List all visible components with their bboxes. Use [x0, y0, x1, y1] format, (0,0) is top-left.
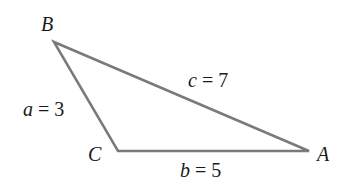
side-label-c: c = 7 [188, 69, 228, 91]
side-b-variable: b [180, 159, 190, 181]
vertex-label-c: C [88, 143, 102, 165]
triangle-diagram: B C A a = 3 c = 7 b = 5 [0, 0, 350, 196]
side-label-a: a = 3 [23, 98, 64, 120]
side-label-b: b = 5 [180, 159, 221, 181]
side-b-equals: = [190, 159, 211, 181]
vertex-label-a: A [315, 143, 330, 165]
vertex-label-b: B [41, 13, 53, 35]
side-a-variable: a [23, 98, 33, 120]
side-c-variable: c [188, 69, 197, 91]
side-a-equals: = [33, 98, 54, 120]
side-a-value: 3 [54, 98, 64, 120]
side-b-value: 5 [211, 159, 221, 181]
side-c-equals: = [197, 69, 218, 91]
side-c-value: 7 [218, 69, 228, 91]
triangle-abc [54, 42, 309, 151]
